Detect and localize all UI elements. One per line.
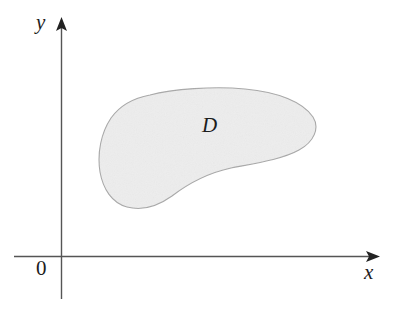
y-axis-label: y [36,12,45,33]
x-axis-label: x [364,262,373,283]
figure-canvas: y x 0 D [0,0,397,322]
region-d-label: D [202,115,217,136]
region-d-shape [99,88,316,209]
origin-label: 0 [36,258,47,279]
coordinate-plane-svg [0,0,397,322]
